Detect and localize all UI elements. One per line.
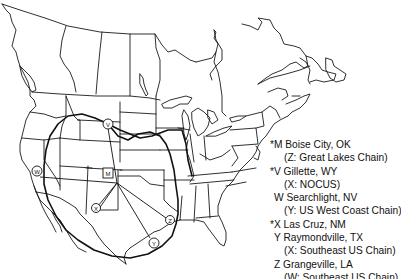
dakotas-border — [120, 112, 156, 114]
legend-entry-m: *M Boise City, OK — [270, 138, 401, 151]
marker-m: M — [103, 168, 113, 178]
tn-ky-border — [188, 172, 232, 176]
texas-coast — [124, 248, 130, 264]
al-ga-border — [208, 184, 210, 218]
legend-note-w: (Y: US West Coast Chain) — [270, 204, 401, 217]
legend-entry-v: *V Gillette, WY — [270, 165, 401, 178]
quebec-labrador-border — [300, 58, 310, 84]
pa-borders — [230, 128, 258, 146]
legend-entry-x: *X Las Cruz, NM — [270, 218, 401, 231]
la-ms-border — [180, 196, 182, 220]
svg-text:M: M — [106, 171, 111, 177]
marker-z: Z — [166, 216, 175, 225]
canada-north-coast — [2, 4, 196, 62]
legend-note-m: (Z: Great Lakes Chain) — [270, 151, 401, 164]
tn-south — [190, 180, 234, 184]
ok-tx-border — [118, 176, 164, 186]
wv-border — [232, 146, 238, 166]
new-england — [262, 106, 280, 118]
new-brunswick — [268, 88, 288, 100]
bc-alberta-border — [60, 26, 76, 92]
marker-x: X — [92, 204, 101, 213]
ga-fl-border — [196, 216, 218, 218]
alberta-sask-border — [96, 32, 102, 94]
wy-co-ut-border — [80, 140, 120, 142]
legend: *M Boise City, OK (Z: Great Lakes Chain)… — [270, 138, 401, 279]
michigan-lower — [192, 108, 210, 136]
map-figure: M V W X Y Z *M Boise City, OK (Z: Great … — [0, 0, 401, 279]
route-loop — [44, 114, 178, 258]
il-in-border — [190, 134, 194, 162]
quebec-north-coast — [242, 18, 308, 84]
ar-ok-la — [164, 170, 178, 212]
oh-ky-border — [200, 150, 230, 160]
lake-erie — [206, 126, 232, 136]
legend-entry-z: Z Grangeville, LA — [270, 258, 401, 271]
spoke-hub-y — [117, 183, 150, 238]
pacific-coast — [2, 4, 62, 232]
newfoundland — [326, 58, 346, 82]
marker-y: Y — [149, 238, 159, 248]
marker-w: W — [32, 166, 42, 176]
or-ca-nv-border — [22, 138, 60, 140]
nc-sc-border — [226, 182, 246, 186]
svg-text:Z: Z — [168, 218, 172, 224]
va-nc-border — [232, 168, 256, 172]
svg-text:Y: Y — [152, 241, 156, 247]
legend-entry-w: W Searchlight, NV — [270, 191, 401, 204]
legend-note-v: (X: NOCUS) — [270, 178, 401, 191]
ms-al-border — [194, 186, 196, 222]
james-bay — [210, 30, 222, 80]
manitoba-ontario-border — [155, 34, 160, 96]
marker-v: V — [103, 119, 113, 129]
wa-or-border — [30, 112, 66, 118]
spoke-hub-z — [117, 183, 166, 218]
lake-ontario — [230, 116, 246, 122]
svg-text:V: V — [106, 122, 110, 128]
az-nm-border — [86, 166, 88, 214]
svg-text:W: W — [34, 169, 40, 175]
nova-scotia — [286, 94, 310, 116]
ny-borders — [246, 112, 264, 128]
svg-text:X: X — [94, 206, 98, 212]
legend-entry-y: Y Raymondville, TX — [270, 231, 401, 244]
rio-grande — [76, 208, 126, 264]
legend-note-z: (W: Southeast US Chain) — [270, 271, 401, 279]
legend-note-y: (X: Southeast US Chain) — [270, 244, 401, 257]
lake-superior — [162, 96, 192, 108]
lake-winnipeg — [140, 74, 148, 96]
